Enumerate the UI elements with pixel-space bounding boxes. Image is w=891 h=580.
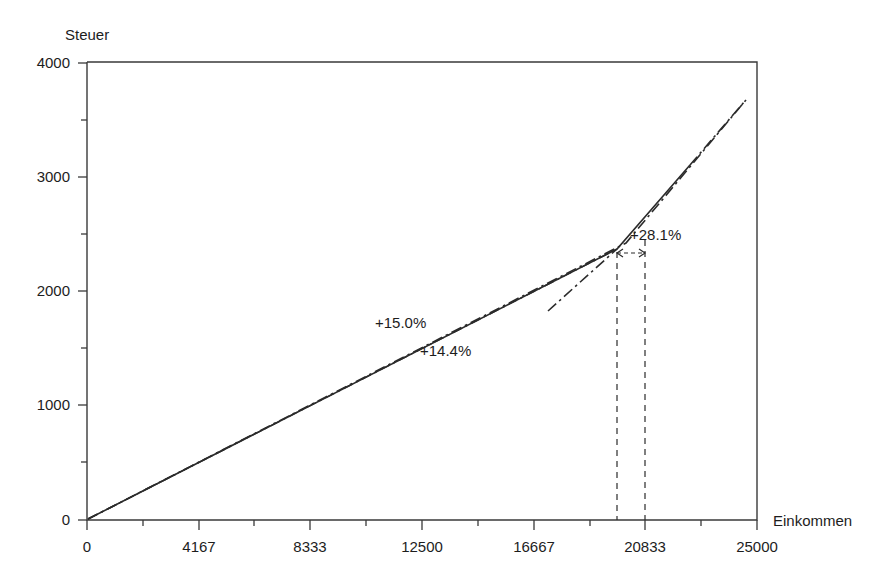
y-tick-label-0: 0 <box>62 511 70 528</box>
x-tick-label-20833: 20833 <box>624 538 666 555</box>
x-tick-label-8333: 8333 <box>293 538 326 555</box>
span-arrow-28-1 <box>617 249 645 257</box>
x-axis-ticks <box>87 520 757 530</box>
y-axis-tick-labels: 0 1000 2000 3000 4000 <box>37 54 70 528</box>
series-line-solid <box>88 165 690 519</box>
y-tick-label-1000: 1000 <box>37 396 70 413</box>
chart-container: 0 1000 2000 3000 4000 0 4167 8333 <box>0 0 891 580</box>
y-axis-title: Steuer <box>65 26 109 43</box>
x-axis-title: Einkommen <box>773 512 852 529</box>
x-tick-label-12500: 12500 <box>401 538 443 555</box>
x-tick-label-4167: 4167 <box>182 538 215 555</box>
x-tick-label-0: 0 <box>83 538 91 555</box>
tax-income-line-chart: 0 1000 2000 3000 4000 0 4167 8333 <box>0 0 891 580</box>
annotation-label-28-1: +28.1% <box>630 226 681 243</box>
frame-border <box>87 62 757 520</box>
y-tick-label-3000: 3000 <box>37 168 70 185</box>
vertical-guides-group <box>617 240 645 520</box>
y-axis-ticks <box>78 63 87 520</box>
series-line-upper-15-0 <box>88 100 746 519</box>
y-tick-label-2000: 2000 <box>37 282 70 299</box>
data-series-group <box>88 100 746 519</box>
x-axis-tick-labels: 0 4167 8333 12500 16667 20833 25000 <box>83 538 778 555</box>
annotation-label-15-0: +15.0% <box>375 314 426 331</box>
x-tick-label-16667: 16667 <box>513 538 555 555</box>
y-tick-label-4000: 4000 <box>37 54 70 71</box>
x-tick-label-25000: 25000 <box>736 538 778 555</box>
series-line-steep-segment <box>548 249 617 311</box>
plot-frame <box>87 62 757 520</box>
annotation-label-14-4: +14.4% <box>420 342 471 359</box>
